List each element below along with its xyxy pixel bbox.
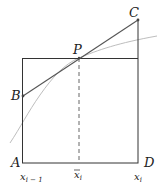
point-p <box>78 57 80 59</box>
rectangle <box>23 59 139 164</box>
point-b <box>22 95 25 98</box>
label-x-i-minus-1: xi − 1 <box>20 171 43 184</box>
tangent-midpoint-diagram: A D B C P xi − 1 xi xi <box>0 0 160 189</box>
label-d: D <box>143 155 155 170</box>
label-a: A <box>10 155 20 170</box>
label-x-i: xi <box>134 171 142 184</box>
label-c: C <box>129 5 139 20</box>
label-x-bar-i: xi <box>74 169 82 182</box>
label-p: P <box>72 42 82 57</box>
label-b: B <box>10 88 21 103</box>
